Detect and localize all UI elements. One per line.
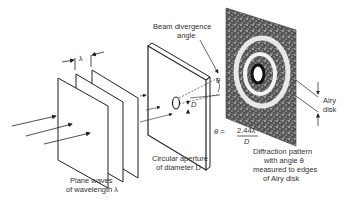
pattern-label-2: with angle θ [264,156,304,165]
plane-waves [58,70,138,188]
beam-divergence-pointer [200,40,218,73]
diameter-label: D [191,100,196,109]
beam-divergence-label-1: Beam divergence [153,22,211,31]
airy-label-2: disk [323,105,336,114]
airy-disk [252,65,264,83]
aperture-label-2: of diameter D [156,163,201,172]
wavelength-dimension [62,52,104,70]
beam-divergence-label-2: angle [177,31,195,40]
theta-label: θ [216,76,220,85]
pattern-label-4: of Airy disk [263,174,299,183]
airy-label-1: Airy [323,96,336,105]
circular-aperture-plate [148,43,210,170]
formula-denominator: D [244,137,249,146]
plane-waves-label-2: of wavelength λ [66,185,118,194]
pattern-label-3: measured to edges [253,165,317,174]
plane-waves-label-1: Plane waves [70,176,113,185]
formula-lhs: θ = [214,127,225,136]
pattern-label-1: Diffraction pattern [253,147,312,156]
airy-disk-dimension [296,80,318,126]
formula-numerator: 2.44λ [237,126,255,135]
wavelength-label: λ [79,54,83,63]
aperture-label-1: Circular aperture [152,154,208,163]
aperture-hole [173,97,180,109]
